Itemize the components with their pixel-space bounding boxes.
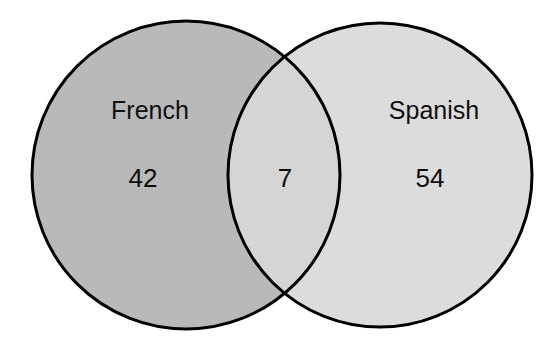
french-set-label: French — [111, 96, 189, 124]
intersection-count: 7 — [278, 163, 292, 193]
spanish-set-label: Spanish — [389, 96, 479, 124]
venn-diagram-figure: French Spanish 42 7 54 — [0, 0, 556, 349]
french-only-count: 42 — [129, 163, 158, 193]
spanish-only-count: 54 — [416, 163, 445, 193]
venn-diagram-canvas: French Spanish 42 7 54 — [0, 0, 556, 349]
